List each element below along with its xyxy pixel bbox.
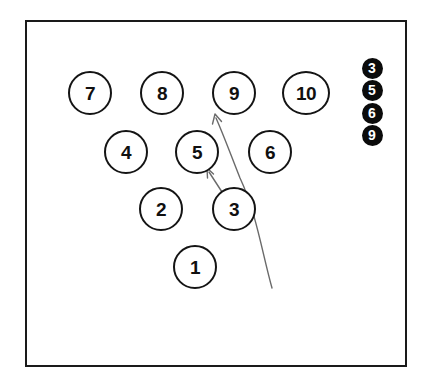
pin-7[interactable]: 7 xyxy=(68,71,112,115)
pin-5[interactable]: 5 xyxy=(175,130,219,174)
pin-diagram-root: 7 8 9 10 4 5 6 2 3 1 3 5 6 9 xyxy=(0,0,435,384)
pin-label: 7 xyxy=(85,84,95,103)
pin-6[interactable]: 6 xyxy=(248,130,292,174)
pin-label: 6 xyxy=(265,143,275,162)
badge-pin-3[interactable]: 3 xyxy=(362,58,383,79)
pin-label: 8 xyxy=(157,84,167,103)
pin-label: 2 xyxy=(156,200,166,219)
pin-label: 5 xyxy=(192,143,202,162)
pin-10[interactable]: 10 xyxy=(282,71,330,115)
pin-1[interactable]: 1 xyxy=(173,245,217,289)
badge-label: 9 xyxy=(368,128,376,142)
badge-label: 3 xyxy=(368,61,376,75)
pin-4[interactable]: 4 xyxy=(104,130,148,174)
pin-label: 1 xyxy=(190,258,200,277)
badge-pin-6[interactable]: 6 xyxy=(362,103,383,124)
badge-label: 6 xyxy=(368,106,376,120)
pin-3[interactable]: 3 xyxy=(212,187,256,231)
pin-9[interactable]: 9 xyxy=(212,71,256,115)
pin-8[interactable]: 8 xyxy=(140,71,184,115)
badge-label: 5 xyxy=(368,83,376,97)
pin-2[interactable]: 2 xyxy=(139,187,183,231)
badge-pin-9[interactable]: 9 xyxy=(362,125,383,146)
pin-label: 10 xyxy=(296,84,316,103)
pin-label: 9 xyxy=(229,84,239,103)
pin-label: 3 xyxy=(229,200,239,219)
pin-label: 4 xyxy=(121,143,131,162)
badge-pin-5[interactable]: 5 xyxy=(362,80,383,101)
